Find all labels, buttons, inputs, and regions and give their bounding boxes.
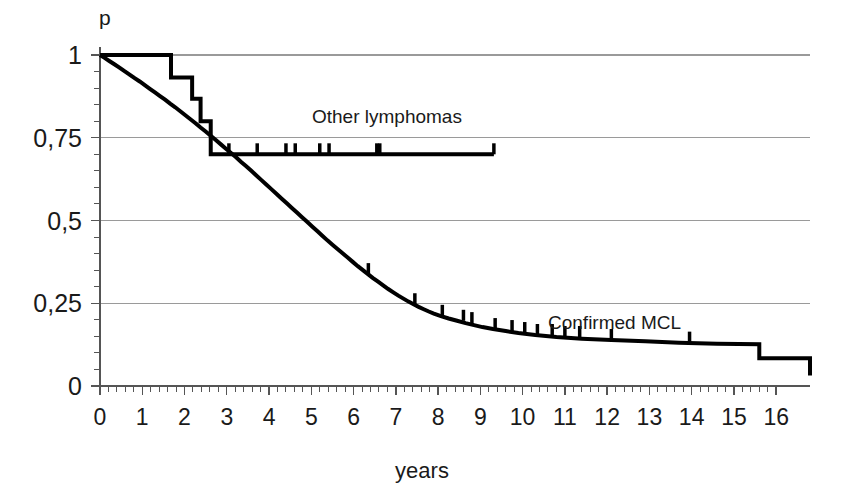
x-tick-label: 10	[510, 404, 536, 431]
x-tick-label: 9	[474, 404, 487, 431]
x-tick-label: 12	[594, 404, 620, 431]
x-tick-label: 4	[263, 404, 276, 431]
x-tick-label: 6	[347, 404, 360, 431]
survival-chart-figure: p years 10,750,50,250 012345678910111213…	[0, 0, 844, 504]
x-tick-label: 15	[721, 404, 747, 431]
series-label-confirmed-mcl: Confirmed MCL	[548, 312, 681, 334]
x-tick-label: 16	[763, 404, 789, 431]
x-tick-label: 13	[637, 404, 663, 431]
x-tick-label: 0	[94, 404, 107, 431]
x-tick-label: 14	[679, 404, 705, 431]
x-tick-label: 2	[178, 404, 191, 431]
x-tick-label: 1	[136, 404, 149, 431]
x-tick-label: 5	[305, 404, 318, 431]
x-tick-label: 7	[389, 404, 402, 431]
series-label-other-lymphomas: Other lymphomas	[312, 106, 462, 128]
x-tick-label: 11	[553, 404, 577, 431]
x-axis-tick-labels: 012345678910111213141516	[0, 0, 844, 504]
x-tick-label: 3	[220, 404, 233, 431]
x-tick-label: 8	[432, 404, 445, 431]
